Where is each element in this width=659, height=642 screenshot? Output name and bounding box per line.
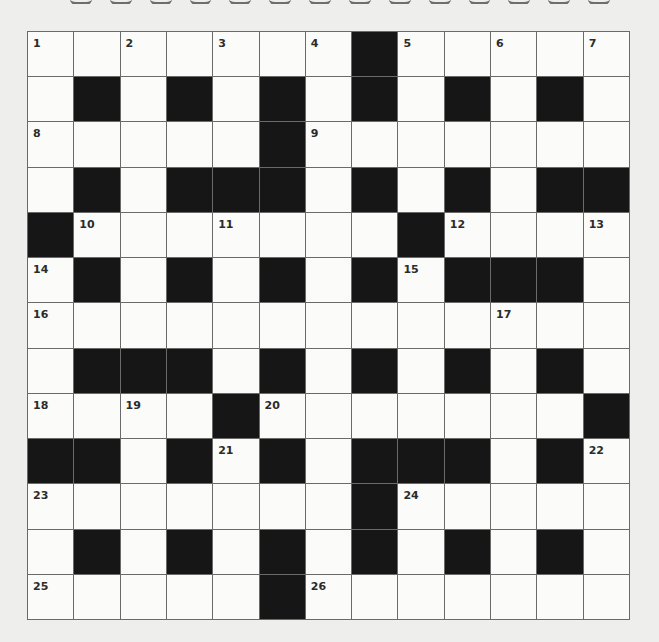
crossword-cell[interactable] <box>537 213 582 257</box>
crossword-cell[interactable] <box>121 530 166 574</box>
crossword-cell[interactable] <box>167 484 212 528</box>
crossword-cell[interactable] <box>306 303 351 347</box>
crossword-cell[interactable] <box>167 122 212 166</box>
crossword-cell[interactable] <box>306 530 351 574</box>
crossword-cell[interactable] <box>352 213 397 257</box>
crossword-cell[interactable] <box>398 394 443 438</box>
crossword-cell[interactable] <box>260 484 305 528</box>
crossword-cell[interactable]: 13 <box>584 213 629 257</box>
crossword-cell[interactable] <box>445 122 490 166</box>
crossword-cell[interactable] <box>584 349 629 393</box>
crossword-cell[interactable] <box>306 349 351 393</box>
crossword-cell[interactable] <box>491 168 536 212</box>
crossword-cell[interactable] <box>167 32 212 76</box>
crossword-cell[interactable] <box>398 77 443 121</box>
crossword-cell[interactable] <box>445 394 490 438</box>
crossword-cell[interactable] <box>306 213 351 257</box>
crossword-cell[interactable] <box>398 530 443 574</box>
crossword-cell[interactable] <box>74 484 119 528</box>
crossword-cell[interactable]: 11 <box>213 213 258 257</box>
crossword-cell[interactable] <box>121 484 166 528</box>
crossword-cell[interactable] <box>491 122 536 166</box>
crossword-cell[interactable] <box>491 213 536 257</box>
crossword-cell[interactable] <box>445 32 490 76</box>
crossword-cell[interactable] <box>491 77 536 121</box>
crossword-cell[interactable] <box>491 575 536 619</box>
crossword-cell[interactable] <box>74 575 119 619</box>
crossword-cell[interactable] <box>306 77 351 121</box>
crossword-cell[interactable]: 3 <box>213 32 258 76</box>
crossword-cell[interactable]: 15 <box>398 258 443 302</box>
crossword-cell[interactable] <box>537 32 582 76</box>
crossword-cell[interactable] <box>213 349 258 393</box>
crossword-cell[interactable] <box>352 122 397 166</box>
crossword-cell[interactable] <box>398 349 443 393</box>
crossword-cell[interactable] <box>584 303 629 347</box>
crossword-cell[interactable] <box>584 77 629 121</box>
crossword-cell[interactable]: 23 <box>28 484 73 528</box>
crossword-cell[interactable] <box>213 258 258 302</box>
crossword-cell[interactable] <box>491 484 536 528</box>
crossword-cell[interactable] <box>491 530 536 574</box>
crossword-cell[interactable] <box>352 575 397 619</box>
crossword-cell[interactable] <box>584 575 629 619</box>
crossword-cell[interactable] <box>306 394 351 438</box>
crossword-cell[interactable] <box>74 122 119 166</box>
crossword-cell[interactable] <box>537 575 582 619</box>
crossword-cell[interactable] <box>584 122 629 166</box>
crossword-cell[interactable]: 12 <box>445 213 490 257</box>
crossword-cell[interactable] <box>121 258 166 302</box>
crossword-cell[interactable] <box>445 303 490 347</box>
crossword-cell[interactable] <box>121 303 166 347</box>
crossword-cell[interactable] <box>584 258 629 302</box>
crossword-cell[interactable] <box>121 439 166 483</box>
crossword-cell[interactable]: 17 <box>491 303 536 347</box>
crossword-cell[interactable] <box>491 349 536 393</box>
crossword-cell[interactable] <box>74 303 119 347</box>
crossword-cell[interactable] <box>398 122 443 166</box>
crossword-cell[interactable] <box>213 303 258 347</box>
crossword-cell[interactable]: 6 <box>491 32 536 76</box>
crossword-cell[interactable]: 1 <box>28 32 73 76</box>
crossword-cell[interactable] <box>306 439 351 483</box>
crossword-cell[interactable]: 7 <box>584 32 629 76</box>
crossword-cell[interactable] <box>28 168 73 212</box>
crossword-cell[interactable]: 19 <box>121 394 166 438</box>
crossword-cell[interactable] <box>167 213 212 257</box>
crossword-cell[interactable] <box>167 394 212 438</box>
crossword-cell[interactable] <box>28 77 73 121</box>
crossword-cell[interactable] <box>167 303 212 347</box>
crossword-cell[interactable] <box>213 77 258 121</box>
crossword-cell[interactable]: 20 <box>260 394 305 438</box>
crossword-cell[interactable] <box>306 484 351 528</box>
crossword-cell[interactable] <box>167 575 212 619</box>
crossword-cell[interactable] <box>260 303 305 347</box>
crossword-cell[interactable] <box>398 168 443 212</box>
crossword-cell[interactable] <box>74 394 119 438</box>
crossword-cell[interactable] <box>121 77 166 121</box>
crossword-cell[interactable] <box>260 32 305 76</box>
crossword-cell[interactable] <box>260 213 305 257</box>
crossword-cell[interactable]: 22 <box>584 439 629 483</box>
crossword-cell[interactable] <box>121 575 166 619</box>
crossword-cell[interactable]: 24 <box>398 484 443 528</box>
crossword-cell[interactable]: 10 <box>74 213 119 257</box>
crossword-cell[interactable] <box>491 394 536 438</box>
crossword-cell[interactable] <box>584 530 629 574</box>
crossword-cell[interactable] <box>584 484 629 528</box>
crossword-cell[interactable] <box>491 439 536 483</box>
crossword-cell[interactable] <box>445 484 490 528</box>
crossword-cell[interactable] <box>213 122 258 166</box>
crossword-cell[interactable]: 2 <box>121 32 166 76</box>
crossword-cell[interactable] <box>121 168 166 212</box>
crossword-cell[interactable]: 18 <box>28 394 73 438</box>
crossword-cell[interactable] <box>398 575 443 619</box>
crossword-cell[interactable]: 14 <box>28 258 73 302</box>
crossword-cell[interactable]: 25 <box>28 575 73 619</box>
crossword-cell[interactable] <box>537 303 582 347</box>
crossword-cell[interactable]: 5 <box>398 32 443 76</box>
crossword-cell[interactable] <box>121 122 166 166</box>
crossword-cell[interactable] <box>74 32 119 76</box>
crossword-cell[interactable] <box>28 349 73 393</box>
crossword-cell[interactable]: 8 <box>28 122 73 166</box>
